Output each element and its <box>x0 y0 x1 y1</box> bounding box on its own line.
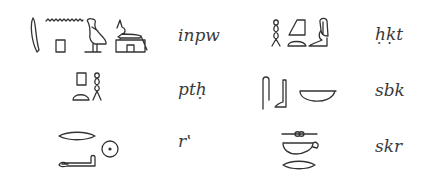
basket-handle-icon <box>283 142 318 154</box>
door-bolt-icon <box>282 132 317 137</box>
mouth-icon <box>59 132 95 140</box>
forearm-icon <box>59 156 95 167</box>
hill-slope-icon <box>289 20 305 35</box>
transliteration-skr: skr <box>375 138 402 155</box>
mouth-icon <box>283 161 315 169</box>
leg-foot-icon <box>275 80 286 107</box>
quail-chick-icon <box>85 19 106 52</box>
transliteration-pth: ptḥ <box>178 81 207 98</box>
basket-icon <box>300 91 336 101</box>
stool-square-icon <box>77 73 86 85</box>
water-ripple-icon <box>46 19 83 21</box>
transliteration-inpw: inpw <box>178 27 220 44</box>
transliteration-ra: r‛ <box>178 133 192 150</box>
heqet-hieroglyphs <box>272 18 328 46</box>
sun-disk-center-icon <box>108 147 111 150</box>
seated-goddess-icon <box>309 18 328 46</box>
reed-leaf-icon <box>31 18 39 52</box>
sokar-hieroglyphs <box>282 132 318 169</box>
bread-loaf-icon <box>73 95 89 100</box>
ptah-hieroglyphs <box>73 73 101 100</box>
sobek-hieroglyphs <box>263 77 336 109</box>
bread-loaf-icon <box>288 42 306 47</box>
transliteration-sbk: sbk <box>375 82 405 99</box>
anubis-hieroglyphs <box>31 18 147 52</box>
jackal-on-shrine-icon <box>116 20 147 52</box>
folded-cloth-icon <box>263 77 269 109</box>
ra-hieroglyphs <box>59 132 118 166</box>
twisted-flax-icon <box>93 73 101 100</box>
transliteration-hkt: ḥḳt <box>375 26 403 43</box>
stool-square-icon <box>56 40 65 52</box>
twisted-flax-icon <box>272 20 280 46</box>
